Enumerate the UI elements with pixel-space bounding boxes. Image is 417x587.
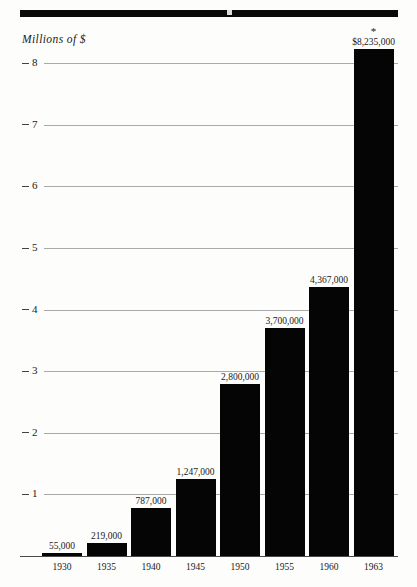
bar-1955[interactable] (265, 328, 305, 556)
bar-value-label-1930: 55,000 (30, 541, 94, 551)
y-tick-mark (22, 309, 29, 310)
y-tick-label: 3 (32, 364, 38, 376)
bar-1940[interactable] (131, 508, 171, 556)
bar-value-label-1950: 2,800,000 (208, 372, 272, 382)
y-tick-label: 1 (32, 487, 38, 499)
bar-value-label-1955: 3,700,000 (253, 316, 317, 326)
bar-value-label-1960: 4,367,000 (297, 275, 361, 285)
y-tick-label: 4 (32, 303, 38, 315)
x-axis-baseline (20, 556, 398, 557)
bar-1935[interactable] (87, 543, 127, 556)
y-tick-label: 2 (32, 426, 38, 438)
y-tick-mark (22, 494, 29, 495)
x-tick-label-1963: 1963 (346, 562, 402, 572)
y-tick-mark (22, 371, 29, 372)
y-tick-label: 6 (32, 179, 38, 191)
y-tick-label: 7 (32, 118, 38, 130)
bar-value-label-1935: 219,000 (75, 531, 139, 541)
gridline (44, 63, 398, 64)
gridline (44, 125, 398, 126)
bar-1945[interactable] (176, 479, 216, 556)
annotation-asterisk: * (342, 27, 406, 35)
bar-value-label-1945: 1,247,000 (164, 467, 228, 477)
bar-value-label-1940: 787,000 (119, 496, 183, 506)
gridline (44, 186, 398, 187)
y-tick-mark (22, 186, 29, 187)
y-tick-label: 5 (32, 241, 38, 253)
bar-1960[interactable] (309, 287, 349, 556)
y-tick-mark (22, 432, 29, 433)
y-tick-mark (22, 124, 29, 125)
y-tick-mark (22, 248, 29, 249)
y-tick-mark (22, 63, 29, 64)
bar-1950[interactable] (220, 384, 260, 556)
bar-1963[interactable] (354, 49, 394, 556)
y-tick-label: 8 (32, 56, 38, 68)
gridline (44, 248, 398, 249)
bar-chart-plot: 1234567855,0001930219,0001935787,0001940… (0, 0, 417, 587)
bar-value-label-1963: $8,235,000 (342, 37, 406, 47)
